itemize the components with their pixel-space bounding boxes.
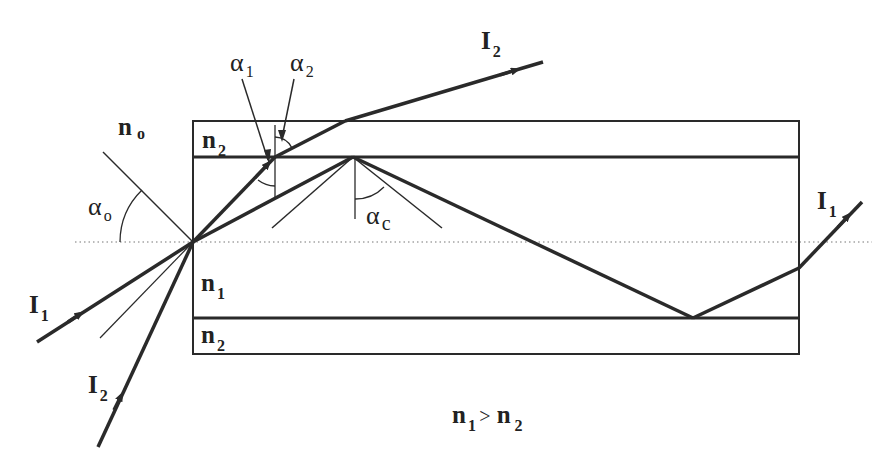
n2-bottom-sub: 2 <box>217 337 225 354</box>
entry-normal-ext <box>100 242 193 338</box>
label-n0: no <box>118 114 145 139</box>
n2-top-sub: 2 <box>218 142 226 159</box>
label-alpha2: α2 <box>290 50 314 76</box>
condition-left-sub: 1 <box>468 417 476 434</box>
diagram-lines <box>0 0 896 471</box>
ray-I1-core-1 <box>193 157 353 242</box>
n0-base: n <box>118 113 132 140</box>
I1-in-base: I <box>29 291 39 318</box>
condition-label: n1 > n2 <box>452 402 523 427</box>
label-I2-out: I2 <box>481 28 501 53</box>
I2-out-base: I <box>481 27 491 54</box>
alpha2-sub: 2 <box>306 63 314 80</box>
condition-right-sub: 2 <box>515 417 523 434</box>
fiber-optics-diagram: no n2 n1 n2 αo α1 α2 αc I1 I2 I2 I1 n1 >… <box>0 0 896 471</box>
alphac-arc <box>355 187 384 199</box>
ray-I2-cladding <box>275 121 345 157</box>
label-I1-out: I1 <box>817 188 837 213</box>
condition-right: n <box>497 401 511 428</box>
condition-left: n <box>452 401 466 428</box>
alphac-sub: c <box>382 212 391 234</box>
ray-I1-core-2 <box>353 157 693 318</box>
alpha2-base: α <box>290 48 304 77</box>
label-alphac: αc <box>366 203 391 229</box>
alpha1-sub: 1 <box>246 63 254 80</box>
alpha2-pointer <box>282 79 294 138</box>
entry-normal <box>103 152 193 242</box>
I2-in-sub: 2 <box>100 387 108 404</box>
I2-in-base: I <box>88 371 98 398</box>
n1-base: n <box>201 269 215 296</box>
I2-out-sub: 2 <box>493 43 501 60</box>
I1-out-base: I <box>817 187 827 214</box>
ray-I1-core-3 <box>693 268 799 318</box>
alpha1-base: α <box>230 48 244 77</box>
label-I2-in: I2 <box>88 372 108 397</box>
n1-sub: 1 <box>217 285 225 302</box>
I1-in-sub: 1 <box>41 307 49 324</box>
alpha1-pointer <box>242 79 268 160</box>
n2-top-base: n <box>202 126 216 153</box>
label-alpha0: αo <box>88 194 112 220</box>
label-n1-core: n1 <box>201 270 225 295</box>
alpha0-base: α <box>88 192 102 221</box>
label-alpha1: α1 <box>230 50 254 76</box>
label-n2-bottom: n2 <box>201 322 225 347</box>
alphac-base: α <box>366 201 380 230</box>
I1-out-sub: 1 <box>829 203 837 220</box>
alpha0-arc <box>120 190 142 242</box>
n2-bottom-base: n <box>201 321 215 348</box>
condition-op: > <box>479 405 490 427</box>
alpha2-arc <box>275 137 292 148</box>
alpha0-sub: o <box>104 207 112 224</box>
alpha1-arc <box>258 180 275 186</box>
n0-sub: o <box>137 125 145 142</box>
label-n2-top: n2 <box>202 127 226 152</box>
label-I1-in: I1 <box>29 292 49 317</box>
